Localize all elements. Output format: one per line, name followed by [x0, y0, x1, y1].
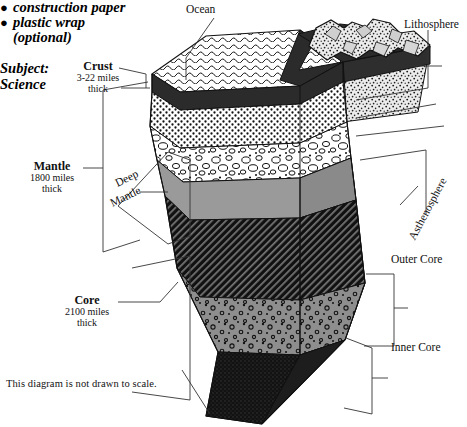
callout-core: Core 2100 miles thick: [56, 294, 118, 328]
earth-cutaway-wedge: [0, 0, 467, 427]
label-lithosphere: Lithosphere: [404, 18, 459, 30]
callout-core-title: Core: [56, 294, 118, 306]
callout-mantle-sub1: 1800 miles: [20, 172, 84, 183]
callout-crust-sub1: 3-22 miles: [72, 72, 124, 83]
callout-crust-title: Crust: [72, 60, 124, 72]
callout-core-sub2: thick: [56, 317, 118, 328]
label-outer-core: Outer Core: [391, 253, 442, 265]
label-ocean: Ocean: [186, 3, 215, 15]
earth-layers-diagram-page: ● construction paper ● plastic wrap (opt…: [0, 0, 467, 427]
diagram-footnote: This diagram is not drawn to scale.: [6, 378, 157, 390]
callout-crust: Crust 3-22 miles thick: [72, 60, 124, 94]
callout-crust-sub2: thick: [72, 83, 124, 94]
callout-mantle-title: Mantle: [20, 160, 84, 172]
callout-core-sub1: 2100 miles: [56, 306, 118, 317]
callout-mantle: Mantle 1800 miles thick: [20, 160, 84, 194]
label-inner-core: Inner Core: [391, 341, 441, 353]
callout-mantle-sub2: thick: [20, 183, 84, 194]
